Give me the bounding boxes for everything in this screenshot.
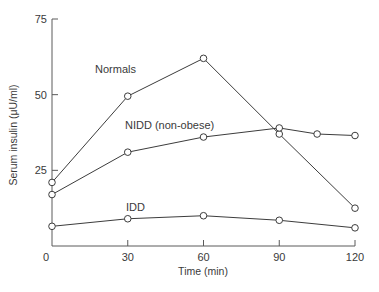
data-point-marker (352, 225, 359, 232)
data-point-marker (276, 217, 283, 224)
y-tick-label: 50 (35, 89, 47, 101)
x-tick-label: 60 (197, 251, 209, 263)
data-point-marker (49, 179, 56, 186)
data-point-marker (200, 55, 207, 62)
x-axis: 0306090120 Time (min) (43, 240, 364, 277)
data-point-marker (124, 215, 131, 222)
data-point-marker (124, 149, 131, 156)
data-point-marker (276, 125, 283, 132)
line-chart: 255075 Serum insulin (μU/ml) 0306090120 … (0, 0, 379, 292)
series-label: NIDD (non-obese) (125, 119, 214, 131)
series-label: Normals (95, 63, 136, 75)
series-layer: NormalsNIDD (non-obese)IDD (49, 55, 359, 231)
y-tick-label: 25 (35, 164, 47, 176)
series-idd: IDD (49, 201, 359, 231)
data-point-marker (200, 134, 207, 141)
data-point-marker (200, 212, 207, 219)
series-label: IDD (126, 201, 145, 213)
x-tick-label: 90 (273, 251, 285, 263)
series-nidd-non-obese: NIDD (non-obese) (49, 119, 359, 198)
y-axis: 255075 Serum insulin (μU/ml) (7, 13, 58, 246)
data-point-marker (352, 205, 359, 212)
data-point-marker (49, 191, 56, 198)
x-tick-label: 0 (43, 251, 49, 263)
data-point-marker (124, 93, 131, 100)
data-point-marker (314, 131, 321, 138)
x-tick-label: 120 (346, 251, 364, 263)
x-tick-label: 30 (122, 251, 134, 263)
x-axis-title: Time (min) (178, 265, 228, 277)
data-point-marker (352, 132, 359, 139)
y-axis-title: Serum insulin (μU/ml) (7, 84, 19, 185)
y-tick-label: 75 (35, 13, 47, 25)
data-point-marker (49, 223, 56, 230)
